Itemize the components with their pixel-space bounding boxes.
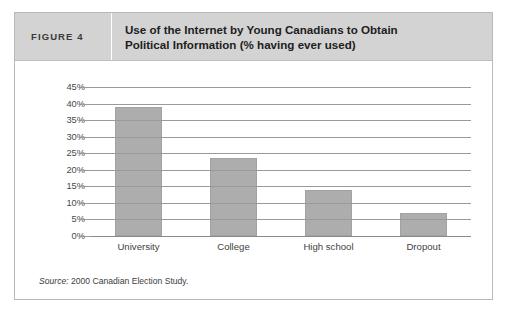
- y-axis-tick-mark: [79, 186, 91, 187]
- x-axis-label: Dropout: [406, 241, 440, 252]
- axis-baseline: [83, 236, 471, 237]
- figure-number-cell: FIGURE 4: [15, 13, 112, 60]
- gridline: [91, 87, 471, 88]
- chart-body: 0%5%10%15%20%25%30%35%40%45% UniversityC…: [15, 61, 492, 300]
- gridline: [91, 153, 471, 154]
- gridline: [91, 170, 471, 171]
- bars-layer: [91, 87, 471, 236]
- y-axis-tick-mark: [79, 153, 91, 154]
- y-axis-tick-mark: [79, 236, 91, 237]
- x-axis-label: College: [217, 241, 250, 252]
- bar-dropout: [400, 213, 447, 236]
- y-axis: 0%5%10%15%20%25%30%35%40%45%: [41, 87, 85, 236]
- y-axis-tick-mark: [79, 137, 91, 138]
- source-prefix: Source:: [39, 276, 69, 286]
- figure-title-cell: Use of the Internet by Young Canadians t…: [112, 13, 492, 60]
- y-axis-tick-mark: [79, 170, 91, 171]
- bar-high-school: [305, 190, 352, 236]
- figure-title-line-2: Political Information (% having ever use…: [125, 38, 356, 51]
- y-axis-tick-mark: [79, 219, 91, 220]
- gridline: [91, 203, 471, 204]
- plot-wrapper: 0%5%10%15%20%25%30%35%40%45% UniversityC…: [15, 61, 492, 261]
- source-note: Source: 2000 Canadian Election Study.: [39, 276, 188, 286]
- bar-university: [115, 107, 162, 236]
- figure-container: FIGURE 4 Use of the Internet by Young Ca…: [14, 12, 493, 300]
- source-text: 2000 Canadian Election Study.: [71, 276, 188, 286]
- x-axis: UniversityCollegeHigh schoolDropout: [91, 241, 471, 259]
- x-axis-label: High school: [303, 241, 353, 252]
- gridline: [91, 186, 471, 187]
- figure-header: FIGURE 4 Use of the Internet by Young Ca…: [15, 13, 492, 61]
- gridline: [91, 219, 471, 220]
- gridline: [91, 137, 471, 138]
- gridline: [91, 120, 471, 121]
- y-axis-tick-mark: [79, 203, 91, 204]
- figure-number-label: FIGURE 4: [31, 31, 84, 42]
- x-axis-label: University: [117, 241, 159, 252]
- gridline: [91, 104, 471, 105]
- y-axis-tick-mark: [79, 120, 91, 121]
- plot-area: [91, 87, 471, 236]
- y-axis-tick-mark: [79, 87, 91, 88]
- y-axis-tick-mark: [79, 104, 91, 105]
- figure-title: Use of the Internet by Young Canadians t…: [125, 22, 398, 52]
- figure-title-line-1: Use of the Internet by Young Canadians t…: [125, 23, 398, 36]
